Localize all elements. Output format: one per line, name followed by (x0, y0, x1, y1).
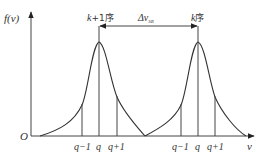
origin-label: O (20, 130, 28, 142)
curve-order-k-plus-1 (40, 42, 145, 136)
y-axis-label: f(ν) (4, 12, 20, 25)
tick-label-right-q: q (195, 141, 200, 152)
fsr-label: ΔνSR (137, 12, 154, 24)
tick-label-left-q-minus-1: q−1 (74, 141, 91, 152)
curve-order-k (145, 42, 246, 136)
peak-right-label: k序 (191, 12, 204, 23)
x-axis-label: ν (247, 140, 252, 152)
tick-label-right-q-plus-1: q+1 (207, 141, 224, 152)
fsr-diagram: f(ν) O ν k+1序 k序 ΔνSR q−1 q q+1 q−1 q q+… (0, 0, 262, 159)
tick-label-left-q-plus-1: q+1 (108, 141, 125, 152)
tick-label-right-q-minus-1: q−1 (172, 141, 189, 152)
tick-label-left-q: q (96, 141, 101, 152)
peak-left-label: k+1序 (87, 12, 114, 23)
